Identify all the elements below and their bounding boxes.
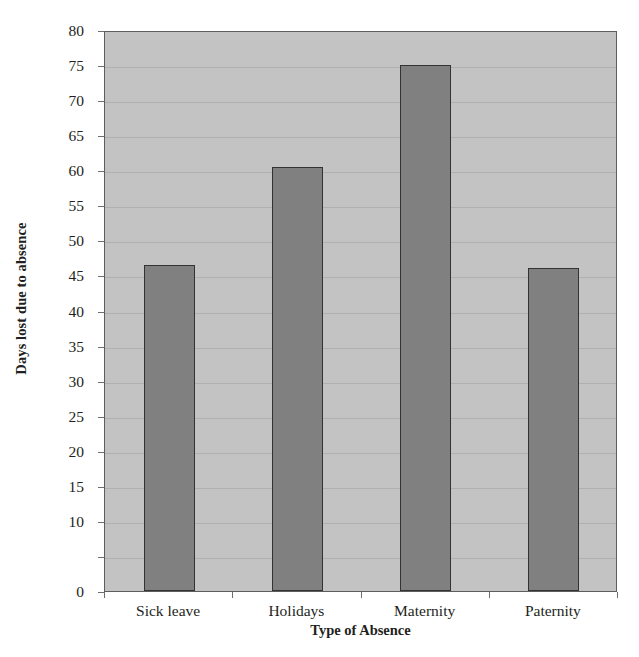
- gridline: [105, 102, 616, 103]
- y-axis-tick-labels: 8075706560555045403530252015100: [0, 0, 100, 657]
- bar-chart-figure: Days lost due to absence 807570656055504…: [0, 0, 639, 657]
- y-axis-tick-label: 25: [14, 409, 84, 425]
- y-axis-tick-label: 65: [14, 128, 84, 144]
- y-axis-tick-label: 40: [14, 304, 84, 320]
- y-axis-tick-label: 55: [14, 199, 84, 215]
- x-axis-tick-mark: [617, 592, 618, 598]
- x-axis-tick-marks: [104, 592, 617, 600]
- y-axis-tick-label: 70: [14, 93, 84, 109]
- x-axis-category-label: Maternity: [361, 600, 489, 622]
- bar: [144, 265, 195, 591]
- x-axis-tick-mark: [104, 592, 105, 598]
- plot-area: [104, 31, 617, 592]
- y-axis-tick-label: 10: [14, 514, 84, 530]
- x-axis-tick-mark: [489, 592, 490, 598]
- gridline: [105, 172, 616, 173]
- x-axis-category-label: Paternity: [489, 600, 617, 622]
- y-axis-tick-label: 50: [14, 234, 84, 250]
- bar: [528, 268, 579, 591]
- y-axis-tick-label: 30: [14, 374, 84, 390]
- y-axis-tick-label: 45: [14, 269, 84, 285]
- x-axis-category-label: Holidays: [232, 600, 360, 622]
- bar: [272, 167, 323, 591]
- x-axis-title: Type of Absence: [104, 622, 617, 639]
- gridline: [105, 137, 616, 138]
- x-axis-category-label: Sick leave: [104, 600, 232, 622]
- gridline: [105, 207, 616, 208]
- x-axis-tick-labels: Sick leaveHolidaysMaternityPaternity: [104, 600, 617, 624]
- gridline: [105, 242, 616, 243]
- y-axis-tick-label: 0: [14, 584, 84, 600]
- x-axis-tick-mark: [361, 592, 362, 598]
- y-axis-tick-label: 35: [14, 339, 84, 355]
- bar: [400, 65, 451, 591]
- y-axis-tick-label: 60: [14, 164, 84, 180]
- y-axis-tick-label: 15: [14, 479, 84, 495]
- y-axis-tick-label: 75: [14, 58, 84, 74]
- y-axis-tick-label: 20: [14, 444, 84, 460]
- y-axis-tick-label: 80: [14, 23, 84, 39]
- x-axis-tick-mark: [232, 592, 233, 598]
- gridline: [105, 67, 616, 68]
